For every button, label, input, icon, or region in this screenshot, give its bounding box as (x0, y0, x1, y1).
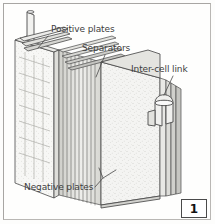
label-negative-plates: Negative plates (24, 182, 93, 193)
figure-number-badge: 1 (181, 199, 207, 218)
label-inter-cell-link: Inter-cell link (131, 64, 188, 75)
figure-container: Positive plates Separators Inter-cell li… (0, 0, 215, 224)
figure-number: 1 (190, 203, 198, 215)
label-positive-plates: Positive plates (51, 24, 115, 35)
positive-plate-grid (15, 38, 59, 198)
label-separators: Separators (82, 43, 130, 54)
